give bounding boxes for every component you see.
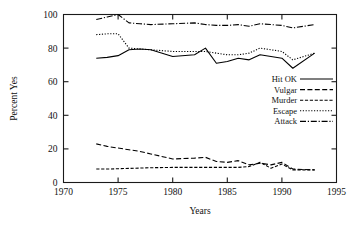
series-line-escape	[96, 34, 314, 60]
y-axis-title: Percent Yes	[9, 76, 19, 121]
series-line-vulgar	[96, 144, 314, 170]
x-tick-label: 1995	[327, 187, 346, 197]
x-tick-label: 1975	[109, 187, 128, 197]
legend-label-murder: Murder	[272, 95, 298, 105]
x-tick-label: 1980	[163, 187, 182, 197]
legend-label-vulgar: Vulgar	[274, 85, 297, 95]
legend-label-hit-ok: Hit OK	[272, 74, 298, 84]
x-axis-title: Years	[189, 206, 211, 216]
chart-legend: Hit OKVulgarMurderEscapeAttack	[272, 74, 334, 126]
x-tick-label: 1970	[54, 187, 73, 197]
x-tick-label: 1990	[272, 187, 291, 197]
line-chart: Hit OKVulgarMurderEscapeAttack 020406080…	[0, 0, 364, 227]
x-tick-label: 1985	[218, 187, 237, 197]
y-tick-label: 100	[43, 10, 58, 20]
legend-label-attack: Attack	[274, 116, 297, 126]
y-tick-label: 40	[48, 111, 58, 121]
series-line-hit-ok	[96, 48, 314, 68]
y-tick-label: 80	[48, 44, 58, 54]
series-line-murder	[96, 162, 314, 170]
y-tick-label: 60	[48, 77, 58, 87]
y-tick-label: 20	[48, 144, 58, 154]
legend-label-escape: Escape	[273, 106, 297, 116]
chart-container: Hit OKVulgarMurderEscapeAttack 020406080…	[0, 0, 364, 227]
